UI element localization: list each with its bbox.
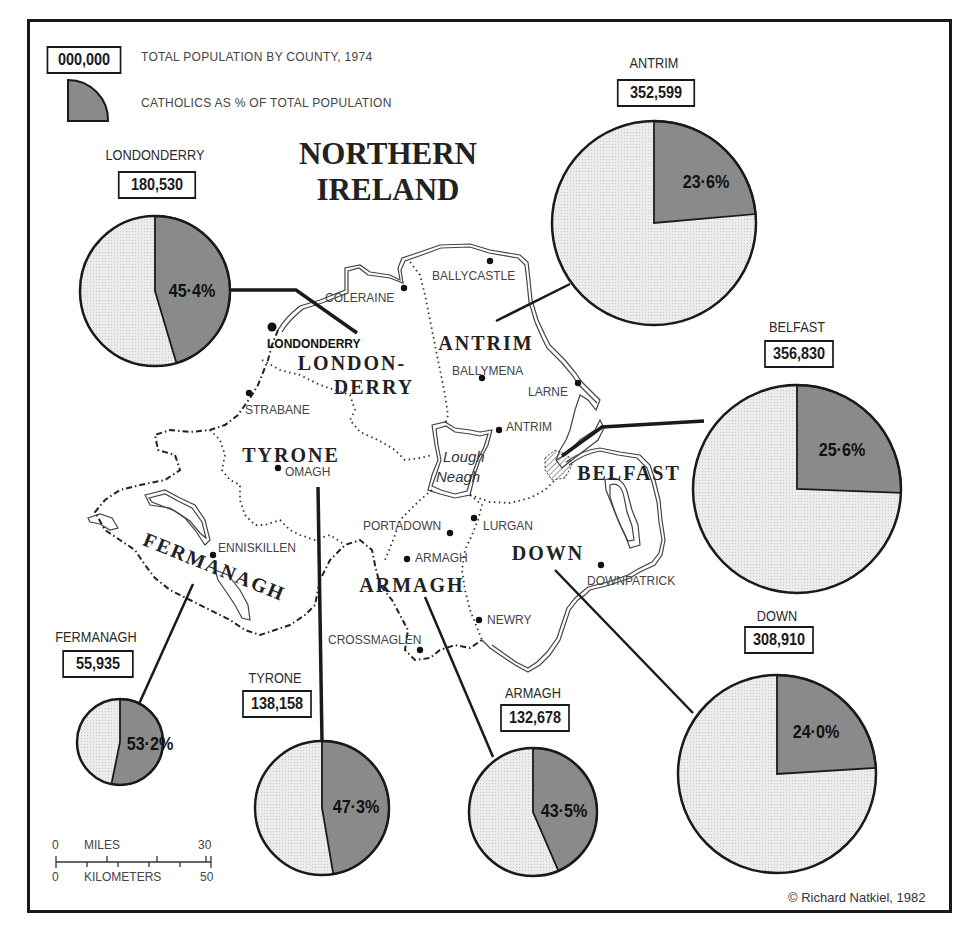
scale-km-max: 50	[200, 870, 213, 884]
town-dot-icon	[471, 515, 477, 521]
county-label: DOWN	[512, 542, 584, 564]
belfast-area	[545, 450, 572, 480]
town-dot-icon	[417, 647, 423, 653]
pie-population-box: 132,678	[500, 704, 570, 732]
map-title-line1: NORTHERN	[278, 136, 498, 172]
pie-percent-label: 45·4%	[169, 280, 216, 302]
pie-population-box: 138,158	[242, 690, 312, 718]
pie-county-name: TYRONE	[216, 669, 335, 686]
town-dot-icon	[268, 323, 277, 332]
town-label: NEWRY	[487, 613, 531, 627]
pie-population-box: 55,935	[62, 650, 133, 678]
lough-neagh-label-1: Lough	[443, 448, 485, 465]
town-dot-icon	[404, 556, 410, 562]
town-dot-icon	[487, 258, 493, 264]
town-label: OMAGH	[285, 465, 330, 479]
town-dot-icon	[476, 617, 482, 623]
county-label: TYRONE	[242, 444, 340, 466]
legend-wedge-label: CATHOLICS AS % OF TOTAL POPULATION	[141, 96, 392, 110]
pie-armagh: 43·5%	[469, 748, 597, 876]
map-title: NORTHERN IRELAND	[278, 136, 498, 208]
town-label: STRABANE	[245, 403, 310, 417]
legend-population-box: 000,000	[47, 46, 122, 74]
county-label: ARMAGH	[359, 574, 464, 596]
town-label: ARMAGH	[415, 551, 468, 565]
town-label: LONDONDERRY	[267, 337, 361, 351]
pie-percent-label: 53·2%	[127, 733, 174, 755]
pie-down: 24·0%	[678, 675, 876, 873]
lough-neagh-label-2: Neagh	[436, 468, 480, 485]
town-label: COLERAINE	[325, 291, 394, 305]
pie-county-name: FERMANAGH	[37, 628, 156, 645]
town-dot-icon	[496, 427, 502, 433]
town-label: BALLYCASTLE	[432, 269, 515, 283]
town-label: ENNISKILLEN	[218, 541, 296, 555]
county-label: DERRY	[334, 376, 414, 398]
pie-londonderry: 45·4%	[80, 216, 230, 366]
pie-county-name: ARMAGH	[474, 684, 593, 701]
map-title-line2: IRELAND	[278, 172, 498, 208]
pie-percent-label: 24·0%	[793, 721, 840, 743]
legend-wedge-icon	[68, 80, 108, 121]
pie-fermanagh: 53·2%	[77, 699, 174, 785]
town-label: CROSSMAGLEN	[328, 633, 421, 647]
pie-population-box: 352,599	[617, 79, 695, 107]
pie-antrim: 23·6%	[552, 121, 756, 325]
town-label: LURGAN	[483, 519, 533, 533]
legend-population-label: TOTAL POPULATION BY COUNTY, 1974	[141, 50, 372, 64]
pie-charts: 45·4%23·6%25·6%24·0%43·5%47·3%53·2%	[77, 121, 901, 876]
town-label: BALLYMENA	[452, 364, 523, 378]
town-dot-icon	[401, 285, 407, 291]
pie-tyrone: 47·3%	[255, 741, 389, 875]
pie-percent-label: 23·6%	[683, 171, 730, 193]
pie-population-box: 308,910	[744, 626, 814, 654]
scale-km-label: KILOMETERS	[84, 870, 161, 884]
county-label: ANTRIM	[438, 332, 533, 354]
pie-county-name: ANTRIM	[595, 54, 714, 71]
pie-county-name: BELFAST	[738, 318, 857, 335]
leader-line	[318, 487, 322, 741]
county-label: LONDON-	[298, 352, 406, 374]
scale-miles-zero: 0	[52, 838, 59, 852]
town-dot-icon	[246, 390, 252, 396]
pie-population-box: 180,530	[118, 171, 196, 199]
town-dot-icon	[575, 380, 581, 386]
town-label: DOWNPATRICK	[587, 574, 675, 588]
pie-percent-label: 47·3%	[333, 796, 380, 818]
scale-km-zero: 0	[52, 870, 59, 884]
town-label: ANTRIM	[506, 420, 552, 434]
pie-percent-label: 43·5%	[541, 800, 588, 822]
copyright-credit: © Richard Natkiel, 1982	[788, 890, 925, 905]
town-dot-icon	[598, 562, 604, 568]
pie-percent-label: 25·6%	[819, 439, 866, 461]
scale-miles-max: 30	[198, 838, 211, 852]
town-label: LARNE	[528, 385, 568, 399]
scale-bar	[56, 856, 211, 868]
scale-miles-label: MILES	[84, 838, 120, 852]
pie-population-box: 356,830	[764, 340, 834, 368]
leader-line	[425, 597, 493, 757]
pie-county-name: LONDONDERRY	[96, 146, 215, 163]
border-line	[95, 330, 482, 660]
town-label: PORTADOWN	[363, 519, 441, 533]
pie-belfast: 25·6%	[693, 385, 901, 593]
county-label: BELFAST	[577, 462, 681, 484]
county-label-fermanagh: FERMANAGH	[140, 528, 289, 605]
town-dot-icon	[447, 530, 453, 536]
pie-county-name: DOWN	[718, 607, 837, 624]
